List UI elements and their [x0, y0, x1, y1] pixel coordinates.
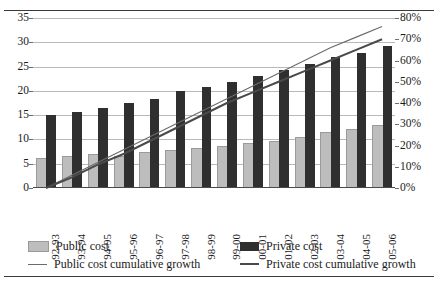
- y-tick-label-left: 30: [18, 37, 30, 49]
- line-public-cumulative-growth: [46, 27, 382, 189]
- y-tick-mark-right: [395, 82, 399, 83]
- y-tick-label-left: 10: [18, 134, 30, 146]
- y-tick-label-right: 20%: [400, 140, 421, 152]
- y-tick-label-right: 10%: [400, 161, 421, 173]
- y-tick-label-left: 25: [18, 61, 30, 73]
- y-tick-label-right: 50%: [400, 76, 421, 88]
- y-tick-label-right: 60%: [400, 55, 421, 67]
- legend-label: Public cost cumulative growth: [54, 258, 200, 270]
- y-tick-mark-right: [395, 188, 399, 189]
- plot-area: 05101520253035 0%10%20%30%40%50%60%70%80…: [33, 18, 395, 188]
- legend-item: Private cost: [240, 240, 322, 252]
- legend-label: Private cost: [266, 240, 322, 252]
- y-tick-mark-left: [29, 188, 33, 189]
- y-tick-mark-right: [395, 124, 399, 125]
- y-tick-mark-right: [395, 103, 399, 104]
- x-axis-line: [33, 187, 395, 188]
- legend-line-thick-icon: [240, 263, 259, 265]
- legend-item: Public cost cumulative growth: [28, 258, 200, 270]
- line-private-cumulative-growth: [46, 39, 382, 188]
- y-tick-mark-right: [395, 18, 399, 19]
- legend-label: Private cost cumulative growth: [266, 258, 416, 270]
- chart-legend: Public costPrivate costPublic cost cumul…: [28, 240, 418, 274]
- figure-bottom-rule: [4, 276, 434, 277]
- legend-swatch-private-icon: [240, 242, 259, 251]
- legend-line-thin-icon: [28, 264, 47, 265]
- legend-label: Public cost: [56, 240, 109, 252]
- y-tick-label-left: 35: [18, 12, 30, 24]
- chart-figure: 05101520253035 0%10%20%30%40%50%60%70%80…: [0, 0, 438, 291]
- y-tick-mark-right: [395, 167, 399, 168]
- x-axis-labels: 92-9393-9494-9595-9696-9797-9898-9999-00…: [33, 190, 395, 236]
- y-tick-label-left: 20: [18, 85, 30, 97]
- y-tick-mark-right: [395, 61, 399, 62]
- y-tick-label-right: 40%: [400, 97, 421, 109]
- y-tick-mark-right: [395, 146, 399, 147]
- y-tick-label-right: 70%: [400, 34, 421, 46]
- legend-item: Public cost: [28, 240, 109, 252]
- growth-lines-layer: [33, 18, 395, 188]
- legend-swatch-public-icon: [28, 241, 49, 252]
- y-tick-label-right: 0%: [400, 182, 415, 194]
- figure-top-rule: [4, 10, 434, 11]
- y-tick-mark-right: [395, 39, 399, 40]
- y-tick-label-left: 15: [18, 109, 30, 121]
- y-tick-label-right: 80%: [400, 12, 421, 24]
- y-tick-label-right: 30%: [400, 119, 421, 131]
- legend-item: Private cost cumulative growth: [240, 258, 416, 270]
